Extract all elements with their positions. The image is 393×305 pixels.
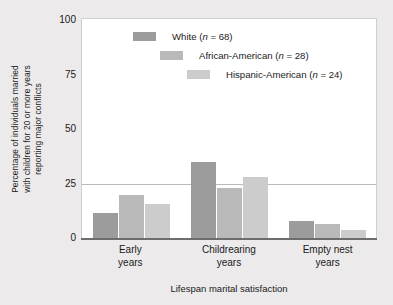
legend-item-african-american: African-American (n = 28)	[133, 46, 373, 65]
bar-early-years-hispanic-american	[145, 204, 170, 239]
y-axis-label-line-1: Percentage of individuals married	[10, 65, 22, 193]
legend-item-hispanic-american: Hispanic-American (n = 24)	[133, 65, 373, 84]
bar-childrearing-years-african-american	[217, 188, 242, 239]
bar-empty-nest-years-african-american	[315, 224, 340, 239]
y-tick-0: 0	[42, 233, 76, 243]
y-axis-label-line-2: with children for 20 or more years	[21, 65, 33, 193]
y-axis-ticks: 100 75 50 25 0	[42, 0, 76, 305]
x-label-childrearing-years: Childrearing years	[184, 244, 274, 278]
legend-swatch-african-american	[160, 51, 183, 60]
x-label-childrearing-years-line-2: years	[184, 257, 274, 270]
bar-childrearing-years-white	[191, 162, 216, 239]
legend-swatch-white	[133, 32, 156, 41]
x-axis-category-labels: Early years Childrearing years Empty nes…	[81, 244, 377, 278]
x-axis-title: Lifespan marital satisfaction	[81, 283, 377, 294]
bar-childrearing-years-hispanic-american	[243, 177, 268, 239]
bar-chart-figure: Percentage of individuals married with c…	[0, 0, 393, 305]
x-label-early-years: Early years	[85, 244, 175, 278]
x-label-empty-nest-years-line-2: years	[283, 257, 373, 270]
bar-empty-nest-years-white	[289, 221, 314, 239]
y-tick-75: 75	[42, 70, 76, 80]
chart-legend: White (n = 68) African-American (n = 28)…	[133, 27, 373, 84]
x-label-childrearing-years-line-1: Childrearing	[184, 244, 274, 257]
x-label-early-years-line-2: years	[85, 257, 175, 270]
bar-early-years-african-american	[119, 195, 144, 239]
x-label-early-years-line-1: Early	[85, 244, 175, 257]
y-tick-50: 50	[42, 124, 76, 134]
x-label-empty-nest-years: Empty nest years	[283, 244, 373, 278]
legend-label-hispanic-american: Hispanic-American (n = 24)	[226, 69, 343, 80]
x-axis-line	[81, 238, 377, 240]
legend-swatch-hispanic-american	[187, 70, 210, 79]
bar-early-years-white	[93, 213, 118, 239]
x-label-empty-nest-years-line-1: Empty nest	[283, 244, 373, 257]
legend-label-african-american: African-American (n = 28)	[199, 50, 309, 61]
legend-item-white: White (n = 68)	[133, 27, 373, 46]
y-tick-100: 100	[42, 15, 76, 25]
y-axis-label: Percentage of individuals married with c…	[8, 18, 46, 240]
y-tick-25: 25	[42, 179, 76, 189]
legend-label-white: White (n = 68)	[172, 31, 233, 42]
